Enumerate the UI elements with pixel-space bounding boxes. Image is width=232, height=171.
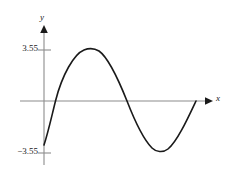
sine-curve-figure: y x 3.55 −3.55 <box>0 0 232 171</box>
y-axis-label: y <box>40 13 44 22</box>
y-tick-label-negative: −3.55 <box>4 147 38 156</box>
arrow-right-icon <box>205 97 213 105</box>
y-tick-label-positive: 3.55 <box>8 44 38 53</box>
arrow-up-icon <box>40 25 48 33</box>
sine-curve-path <box>44 49 196 152</box>
x-axis-label: x <box>216 94 220 103</box>
